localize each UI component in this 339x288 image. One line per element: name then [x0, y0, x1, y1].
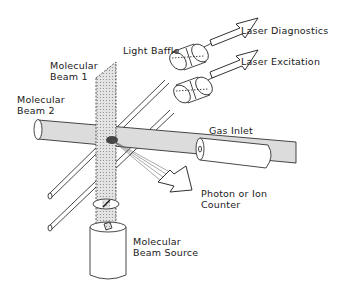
counter-arrow: [158, 166, 192, 192]
label-line: Molecular: [50, 60, 98, 71]
tube-end-icon: [48, 225, 52, 231]
beam-source-label: Molecular Beam Source: [133, 236, 198, 258]
gas-inlet-label: Gas Inlet: [209, 125, 253, 136]
label-line: Counter: [201, 199, 267, 210]
label-line: Molecular: [17, 94, 65, 105]
light-baffle-lower: [170, 74, 216, 106]
label-line: Molecular: [133, 236, 198, 247]
label-line: Photon or Ion: [201, 188, 267, 199]
molecular-beam-1-label: Molecular Beam 1: [50, 60, 98, 82]
laser-excitation-label: Laser Excitation: [241, 56, 320, 67]
molecular-beam-source: [90, 222, 126, 279]
light-baffle-label: Light Baffle: [123, 45, 180, 56]
label-line: Beam 1: [50, 71, 98, 82]
label-line: Beam Source: [133, 247, 198, 258]
label-line: Beam 2: [17, 105, 65, 116]
laser-diagnostics-label: Laser Diagnostics: [241, 25, 328, 36]
tube-end-icon: [48, 193, 52, 199]
photon-counter-label: Photon or Ion Counter: [201, 188, 267, 210]
molecular-beam-2-label: Molecular Beam 2: [17, 94, 65, 116]
